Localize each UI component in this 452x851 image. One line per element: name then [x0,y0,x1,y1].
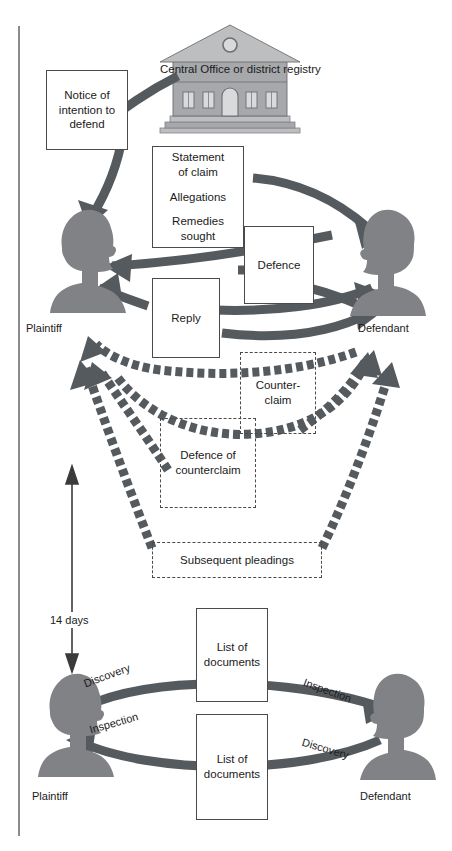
court-building-label: Central Office or district registry [160,62,300,77]
court-label-line-2: or district registry [233,63,321,75]
claim-group-remedies: Remedies sought [172,214,224,243]
label-defendant-top: Defendant [358,322,409,334]
court-label-line-1: Central Office [160,63,230,75]
diagram-canvas: Central Office or district registry Noti… [0,0,452,851]
box-defence[interactable]: Defence [244,226,314,304]
notice-line-3: defend [69,117,104,132]
fourteen-days-arrow [66,466,78,672]
label-fourteen-days: 14 days [48,614,91,626]
arrow-defendant-sweep [222,312,372,336]
court-building-icon [160,25,300,133]
defence-counterclaim-line-1: Defence of [180,448,236,463]
box-defence-of-counterclaim[interactable]: Defence of counterclaim [160,418,256,508]
defence-label: Defence [258,258,301,273]
claim-line-4: Remedies [172,214,224,229]
label-plaintiff-bottom: Plaintiff [32,790,68,802]
list-bottom-line-1: List of [217,752,248,767]
defence-counterclaim-line-2: counterclaim [175,463,240,478]
defendant-silhouette-bottom [360,674,436,780]
claim-line-5: sought [172,229,224,244]
claim-group-allegations: Allegations [170,190,226,205]
counterclaim-line-1: Counter- [256,378,301,393]
box-list-of-documents-bottom[interactable]: List of documents [196,714,268,820]
counterclaim-line-2: claim [265,393,292,408]
subsequent-pleadings-label: Subsequent pleadings [180,553,294,568]
arrow-claim-to-defendant [253,178,368,228]
box-reply[interactable]: Reply [152,278,220,358]
claim-line-3: Allegations [170,190,226,205]
box-statement-of-claim[interactable]: Statement of claim Allegations Remedies … [152,146,244,248]
box-list-of-documents-top[interactable]: List of documents [196,608,268,702]
claim-line-1: Statement [172,150,224,165]
list-top-line-1: List of [217,640,248,655]
list-top-line-2: documents [204,655,260,670]
reply-label: Reply [171,311,200,326]
claim-group-statement: Statement of claim [172,150,224,179]
dashed-arrow-counterclaim-to-plaintiff [96,344,356,373]
label-defendant-bottom: Defendant [360,790,411,802]
box-notice-of-intention-to-defend[interactable]: Notice of intention to defend [46,70,128,150]
claim-line-2: of claim [172,165,224,180]
notice-line-1: Notice of [64,88,109,103]
notice-line-2: intention to [59,103,115,118]
dashed-arrow-to-plaintiff-left [100,370,168,470]
label-plaintiff-top: Plaintiff [26,322,62,334]
list-bottom-line-2: documents [204,767,260,782]
dashed-arrow-subsequent-to-defendant [322,370,390,548]
box-subsequent-pleadings[interactable]: Subsequent pleadings [152,542,322,578]
